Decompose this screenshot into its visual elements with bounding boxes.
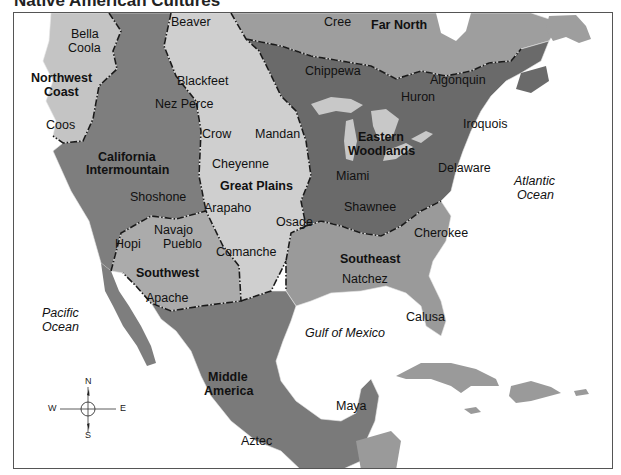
- water-label-gulf-of-mexico: Gulf of Mexico: [305, 326, 385, 340]
- tribe-label-beaver: Beaver: [171, 15, 211, 29]
- tribe-label-miami: Miami: [336, 169, 369, 183]
- tribe-label-hopi: Hopi: [115, 237, 141, 251]
- tribe-label-shawnee: Shawnee: [344, 200, 396, 214]
- region-label-eastern-2: Woodlands: [348, 144, 415, 158]
- tribe-label-cheyenne: Cheyenne: [212, 157, 269, 171]
- tribe-label-arapaho: Arapaho: [204, 201, 251, 215]
- water-label-atlantic-1: Atlantic: [514, 174, 555, 188]
- tribe-label-blackfeet: Blackfeet: [177, 74, 228, 88]
- region-label-southeast: Southeast: [340, 252, 400, 266]
- landmass-hispaniola: [509, 381, 561, 403]
- tribe-label-cree: Cree: [324, 15, 351, 29]
- compass-rose: N S E W: [48, 382, 128, 442]
- compass-south: S: [85, 430, 91, 440]
- map-title: Native American Cultures: [14, 0, 220, 11]
- tribe-label-navajo: Navajo: [154, 223, 193, 237]
- region-label-eastern-1: Eastern: [358, 130, 404, 144]
- tribe-label-delaware: Delaware: [438, 161, 491, 175]
- landmass-puerto-rico: [574, 389, 589, 396]
- tribe-label-bella-coola-1: Bella: [71, 27, 99, 41]
- tribe-label-natchez: Natchez: [342, 272, 388, 286]
- region-label-middle-1: Middle: [208, 370, 248, 384]
- water-label-pacific-2: Ocean: [42, 320, 79, 334]
- map-frame: Far North Northwest Coast California Int…: [13, 12, 613, 469]
- landmass-jamaica: [464, 407, 481, 414]
- tribe-label-iroquois: Iroquois: [463, 117, 507, 131]
- tribe-label-comanche: Comanche: [216, 245, 276, 259]
- compass-west: W: [48, 403, 57, 413]
- region-label-southwest: Southwest: [136, 266, 199, 280]
- tribe-label-maya: Maya: [336, 399, 367, 413]
- tribe-label-algonquin: Algonquin: [430, 73, 486, 87]
- region-label-northwest-coast-1: Northwest: [31, 71, 92, 85]
- tribe-label-huron: Huron: [401, 90, 435, 104]
- tribe-label-shoshone: Shoshone: [130, 190, 186, 204]
- tribe-label-nez-perce: Nez Perce: [155, 97, 213, 111]
- region-label-california-2: Intermountain: [86, 163, 169, 177]
- landmass-cuba: [396, 363, 499, 393]
- tribe-label-crow: Crow: [202, 127, 231, 141]
- tribe-label-aztec: Aztec: [241, 434, 272, 448]
- region-label-great-plains: Great Plains: [220, 179, 293, 193]
- compass-north: N: [85, 376, 92, 386]
- tribe-label-mandan: Mandan: [255, 127, 300, 141]
- tribe-label-cherokee: Cherokee: [414, 226, 468, 240]
- water-label-pacific-1: Pacific: [42, 306, 79, 320]
- compass-east: E: [120, 403, 126, 413]
- tribe-label-pueblo: Pueblo: [163, 237, 202, 251]
- landmass-newfoundland: [546, 15, 591, 43]
- tribe-label-chippewa: Chippewa: [305, 64, 361, 78]
- water-label-atlantic-2: Ocean: [517, 188, 554, 202]
- tribe-label-osage: Osage: [276, 215, 313, 229]
- tribe-label-calusa: Calusa: [406, 310, 445, 324]
- region-label-far-north: Far North: [371, 18, 427, 32]
- region-label-northwest-coast-2: Coast: [44, 85, 79, 99]
- tribe-label-coos: Coos: [46, 118, 75, 132]
- tribe-label-apache: Apache: [146, 291, 188, 305]
- region-label-middle-2: America: [204, 384, 253, 398]
- tribe-label-bella-coola-2: Coola: [68, 41, 101, 55]
- region-label-california-1: California: [98, 150, 156, 164]
